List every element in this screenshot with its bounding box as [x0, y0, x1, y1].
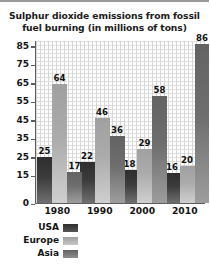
bar-group: 256417	[36, 41, 79, 203]
y-axis-tick-label: 15	[16, 170, 29, 181]
legend-color-swatch	[63, 237, 78, 245]
legend-item-label: Europe	[23, 235, 59, 246]
y-axis-tick-label: 55	[16, 96, 29, 107]
y-axis-tick-label: 0	[23, 198, 29, 209]
y-axis: 01525354555657585	[0, 41, 35, 204]
bar-value-label: 46	[96, 107, 108, 117]
legend-color-swatch	[63, 250, 78, 258]
bar-group: 182958	[121, 41, 164, 203]
bar-value-label: 18	[124, 159, 136, 169]
x-axis-tick-label: 2010	[172, 205, 198, 217]
y-axis-tick-label: 25	[16, 152, 29, 163]
y-axis-tick-label: 85	[16, 41, 29, 52]
sulphur-dioxide-emissions-bar-chart: Sulphur dioxide emissions from fossil fu…	[0, 0, 209, 270]
bar-value-label: 22	[81, 151, 93, 161]
bar-value-label: 17	[69, 161, 81, 171]
bar-value-label: 29	[139, 138, 151, 148]
bar: 17	[67, 172, 82, 203]
x-axis-tick-label: 1990	[87, 205, 113, 217]
y-axis-tick-label: 35	[16, 133, 29, 144]
bar-value-label: 64	[54, 73, 66, 83]
bar-value-label: 20	[181, 155, 193, 165]
bar: 64	[52, 84, 67, 203]
legend-item-label: USA	[38, 222, 59, 233]
chart-legend: USAEuropeAsia	[8, 221, 78, 260]
y-axis-tick-label: 65	[16, 78, 29, 89]
bars-layer: 256417224636182958162086	[36, 41, 205, 203]
bar-value-label: 25	[39, 146, 51, 156]
bar-value-label: 36	[111, 125, 123, 135]
bar: 25	[37, 157, 52, 203]
chart-title-line-1: Sulphur dioxide emissions from fossil	[6, 10, 203, 22]
legend-item-asia: Asia	[8, 247, 78, 260]
legend-item-usa: USA	[8, 221, 78, 234]
legend-color-swatch	[63, 224, 78, 232]
bar-group: 224636	[79, 41, 122, 203]
bar: 29	[137, 149, 152, 203]
bar: 58	[152, 96, 167, 203]
y-axis-tick-label: 45	[16, 115, 29, 126]
bar-value-label: 16	[166, 162, 178, 172]
legend-item-europe: Europe	[8, 234, 78, 247]
x-axis-tick-label: 2000	[129, 205, 155, 217]
chart-title-line-2: fuel burning (in millions of tons)	[6, 22, 203, 34]
bar-value-label: 86	[196, 33, 208, 43]
bar-value-label: 58	[154, 85, 166, 95]
y-axis-tick-label: 75	[16, 59, 29, 70]
bar: 36	[110, 136, 125, 203]
plot-area: 256417224636182958162086	[35, 41, 205, 204]
x-axis-tick-label: 1980	[44, 205, 70, 217]
bar: 86	[195, 44, 210, 203]
legend-item-label: Asia	[38, 248, 59, 259]
bar: 46	[95, 118, 110, 203]
bar-group: 162086	[164, 41, 207, 203]
bar: 20	[180, 166, 195, 203]
x-axis: 1980199020002010	[35, 205, 205, 219]
chart-title: Sulphur dioxide emissions from fossil fu…	[6, 10, 203, 33]
